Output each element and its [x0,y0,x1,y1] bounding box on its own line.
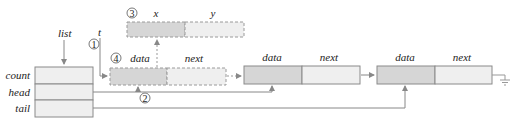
step-4-label: 4 [114,53,119,64]
payload-struct [127,22,244,37]
payload-y [185,22,244,37]
count-field [35,67,93,84]
t-arrow [100,38,107,76]
step-2-label: 2 [143,93,148,104]
list-struct: count head tail [6,67,93,117]
null-ground-icon [492,75,510,85]
node2-next-label: next [453,51,472,63]
payload-x-label: x [153,7,159,19]
list-pointer-label: list [58,27,72,39]
head-arrow [93,87,138,92]
head-to-node1-arrow [138,86,272,92]
head-label: head [9,86,31,98]
new-node-next [167,68,226,85]
new-node-data [110,68,167,85]
payload-x [127,22,185,37]
new-node [110,68,226,85]
new-node-next-label: next [185,52,204,64]
node2-data-label: data [395,51,415,63]
node-1 [244,66,360,84]
head-field [35,84,93,100]
node1-data [244,66,302,84]
node2-data [377,66,435,84]
node1-next [302,66,360,84]
node2-next [435,66,492,84]
node1-next-label: next [320,51,339,63]
t-pointer-label: t [98,26,102,38]
node-2 [377,66,492,84]
step-1-label: 1 [92,39,97,50]
tail-field [35,100,93,117]
count-label: count [6,69,31,81]
new-node-data-label: data [130,52,150,64]
node1-data-label: data [262,51,282,63]
payload-y-label: y [210,7,216,19]
tail-label: tail [15,102,30,114]
step-3-label: 3 [130,8,135,19]
linked-list-diagram: list count head tail t 1 4 data next 3 x… [0,0,518,129]
